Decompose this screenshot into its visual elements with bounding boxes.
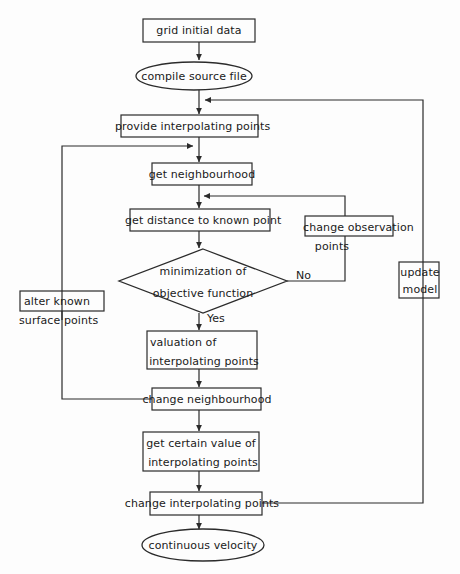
node-label-provide-points: provide interpolating points xyxy=(115,120,265,133)
node-label-get-certain-value-line1: get certain value of xyxy=(141,437,261,450)
node-label-valuation-line1: valuation of xyxy=(150,336,255,349)
node-label-get-neighbourhood: get neighbourhood xyxy=(147,168,257,181)
node-label-change-observation-line1: change observation xyxy=(303,221,398,234)
node-label-minimization-line2: objective function xyxy=(143,287,263,300)
node-label-alter-known-line1: alter known xyxy=(24,295,104,308)
node-label-compile-source-file: compile source file xyxy=(134,70,254,83)
node-label-update-model-line1: update xyxy=(399,266,441,279)
node-label-change-observation-line2: points xyxy=(306,240,358,253)
node-label-change-neighbourhood: change neighbourhood xyxy=(137,393,277,406)
node-label-change-interpolating: change interpolating points xyxy=(112,497,292,510)
node-label-alter-known-line2: surface points xyxy=(19,314,109,327)
node-label-get-certain-value-line2: interpolating points xyxy=(144,456,262,469)
node-label-grid-initial-data: grid initial data xyxy=(143,24,255,37)
node-label-minimization-line1: minimization of xyxy=(143,265,263,278)
node-shape-minimization xyxy=(119,249,287,313)
edge-changeobservation-to-trunk xyxy=(204,196,345,216)
edge-label-yes: Yes xyxy=(207,313,225,325)
flowchart-canvas: grid initial data compile source file pr… xyxy=(0,0,460,574)
node-label-valuation-line2: interpolating points xyxy=(148,355,260,368)
node-label-continuous-velocity: continuous velocity xyxy=(143,539,263,552)
edge-label-no: No xyxy=(296,270,311,282)
node-label-update-model-line2: model xyxy=(399,283,441,296)
node-label-get-distance: get distance to known point xyxy=(125,214,275,227)
